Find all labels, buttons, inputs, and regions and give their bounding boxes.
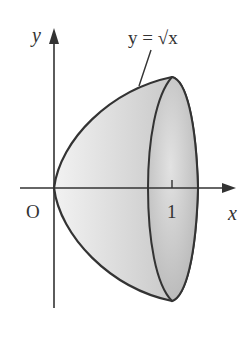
origin-label: O [26, 201, 40, 222]
curve-label: y = √x [128, 27, 178, 48]
y-axis-label: y [30, 24, 41, 47]
diagram-canvas: y y = √x O 1 x [0, 0, 246, 343]
x-axis-arrow-icon [222, 183, 236, 193]
tick-label-1: 1 [167, 201, 177, 222]
curve-label-leader [139, 50, 151, 86]
y-axis-arrow-icon [49, 28, 59, 44]
end-cap-ellipse [148, 77, 198, 301]
x-axis-label: x [227, 202, 237, 224]
